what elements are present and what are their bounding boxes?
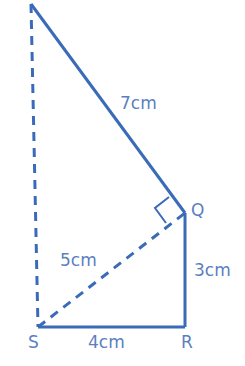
label-7cm: 7cm [120, 95, 157, 112]
vertex-label-r: R [181, 334, 193, 351]
edge-s-top-dashed [31, 4, 38, 327]
geometry-figure [0, 0, 245, 366]
label-5cm: 5cm [60, 252, 97, 269]
label-4cm: 4cm [88, 334, 125, 351]
vertex-label-q: Q [191, 202, 204, 219]
vertex-label-s: S [28, 334, 39, 351]
label-3cm: 3cm [194, 262, 231, 279]
edge-s-q-dashed [38, 213, 185, 327]
edge-top-q [31, 4, 185, 213]
right-angle-marker [155, 197, 169, 223]
